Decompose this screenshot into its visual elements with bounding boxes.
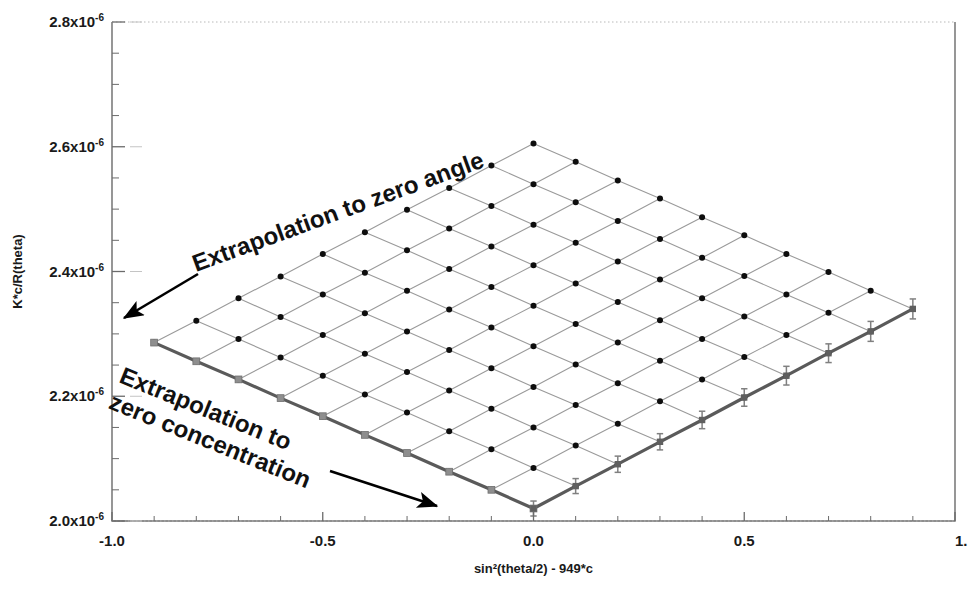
zero-angle-point bbox=[488, 486, 495, 493]
y-tick-label: 2.6x10-6 bbox=[49, 137, 104, 155]
zero-concentration-point bbox=[657, 439, 663, 445]
data-point bbox=[278, 355, 284, 361]
data-point bbox=[404, 328, 410, 334]
mesh-line-constant-concentration bbox=[323, 217, 702, 416]
data-point bbox=[699, 336, 705, 342]
data-point bbox=[783, 251, 789, 257]
data-point bbox=[446, 226, 452, 232]
data-point bbox=[531, 465, 537, 471]
data-point bbox=[531, 343, 537, 349]
zero-angle-point bbox=[235, 376, 242, 383]
mesh-line-constant-angle bbox=[534, 144, 913, 309]
plot-canvas: -1.0-0.50.00.51.2.0x10-62.2x10-62.4x10-6… bbox=[0, 0, 973, 591]
zero-angle-point bbox=[193, 358, 200, 365]
y-tick-label: 2.0x10-6 bbox=[49, 511, 104, 529]
data-point bbox=[615, 299, 621, 305]
mesh-line-constant-angle bbox=[449, 188, 828, 353]
data-point bbox=[615, 259, 621, 265]
data-point bbox=[236, 336, 242, 342]
data-point bbox=[362, 310, 368, 316]
data-point bbox=[615, 177, 621, 183]
zero-concentration-point bbox=[530, 505, 536, 511]
mesh-line-constant-concentration bbox=[491, 291, 870, 490]
data-point bbox=[531, 181, 537, 187]
x-tick-label: -1.0 bbox=[99, 532, 125, 549]
zero-angle-point bbox=[319, 413, 326, 420]
data-point bbox=[531, 303, 537, 309]
data-point bbox=[404, 207, 410, 213]
zero-concentration-point bbox=[741, 394, 747, 400]
data-point bbox=[278, 314, 284, 320]
data-point bbox=[488, 365, 494, 371]
zero-angle-point bbox=[446, 468, 453, 475]
data-point bbox=[573, 240, 579, 246]
data-point bbox=[573, 443, 579, 449]
data-point bbox=[193, 318, 199, 324]
data-point bbox=[657, 317, 663, 323]
zero-angle-point bbox=[362, 432, 369, 439]
data-point bbox=[404, 369, 410, 375]
data-point bbox=[446, 428, 452, 434]
data-point bbox=[657, 277, 663, 283]
data-point bbox=[362, 229, 368, 235]
zero-concentration-point bbox=[573, 483, 579, 489]
data-point bbox=[488, 446, 494, 452]
data-point bbox=[404, 247, 410, 253]
data-point bbox=[488, 284, 494, 290]
zero-angle-point bbox=[151, 339, 158, 346]
x-tick-label: -0.5 bbox=[310, 532, 336, 549]
y-tick-label: 2.8x10-6 bbox=[49, 12, 104, 30]
data-point bbox=[573, 199, 579, 205]
data-point bbox=[531, 141, 537, 147]
data-point bbox=[615, 340, 621, 346]
data-point bbox=[488, 203, 494, 209]
annotation-layer: Extrapolation to zero angleExtrapolation… bbox=[106, 146, 488, 506]
data-point bbox=[868, 288, 874, 294]
data-point bbox=[320, 332, 326, 338]
data-point bbox=[657, 196, 663, 202]
zero-concentration-envelope bbox=[534, 309, 913, 509]
data-point bbox=[699, 295, 705, 301]
zero-angle-point bbox=[277, 395, 284, 402]
data-point bbox=[573, 159, 579, 165]
data-point bbox=[573, 402, 579, 408]
zero-concentration-point bbox=[868, 328, 874, 334]
data-point bbox=[362, 270, 368, 276]
data-point bbox=[615, 380, 621, 386]
data-point bbox=[657, 398, 663, 404]
data-point bbox=[741, 313, 747, 319]
data-point bbox=[446, 307, 452, 313]
data-point bbox=[615, 218, 621, 224]
data-point bbox=[826, 269, 832, 275]
x-tick-label: 0.5 bbox=[734, 532, 755, 549]
data-point bbox=[741, 273, 747, 279]
x-axis-title: sin²(theta/2) - 949*c bbox=[474, 561, 593, 576]
x-tick-label: 1. bbox=[955, 532, 968, 549]
mesh-line-constant-angle bbox=[281, 277, 660, 442]
data-point bbox=[531, 384, 537, 390]
y-axis-title: K*c/R(theta) bbox=[10, 234, 25, 308]
mesh-line-constant-angle bbox=[365, 232, 744, 397]
mesh-line-constant-angle bbox=[239, 298, 618, 464]
data-point bbox=[404, 410, 410, 416]
mesh-line-constant-angle bbox=[407, 210, 786, 376]
zero-angle-arrow bbox=[124, 274, 198, 318]
data-point bbox=[531, 222, 537, 228]
data-point bbox=[531, 262, 537, 268]
data-point bbox=[446, 347, 452, 353]
zero-concentration-point bbox=[615, 461, 621, 467]
data-point bbox=[741, 232, 747, 238]
data-point bbox=[699, 214, 705, 220]
data-point bbox=[488, 163, 494, 169]
data-point bbox=[741, 354, 747, 360]
data-point bbox=[573, 280, 579, 286]
extrapolation-zero-angle-label: Extrapolation to zero angle bbox=[188, 146, 487, 277]
mesh-line-constant-angle bbox=[491, 166, 870, 332]
data-point bbox=[446, 388, 452, 394]
data-point bbox=[320, 292, 326, 298]
data-point bbox=[278, 274, 284, 280]
mesh-line-constant-concentration bbox=[449, 272, 828, 472]
data-point bbox=[446, 266, 452, 272]
y-tick-label: 2.4x10-6 bbox=[49, 262, 104, 280]
extrapolation-zero-concentration-label: Extrapolation tozero concentration bbox=[106, 362, 326, 493]
